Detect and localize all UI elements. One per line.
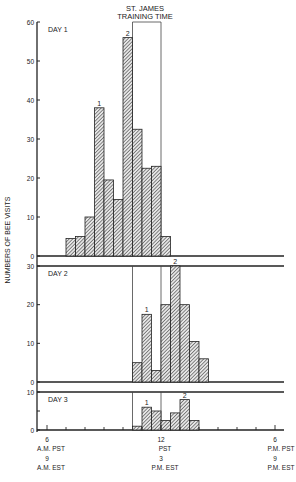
bar xyxy=(199,359,209,382)
bar xyxy=(190,421,200,431)
bar xyxy=(133,129,143,256)
y-tick-label: 60 xyxy=(27,19,35,26)
x-tick-est-num: 9 xyxy=(273,455,277,462)
bar xyxy=(142,314,152,382)
bar xyxy=(171,413,181,430)
bar xyxy=(133,426,143,430)
bar xyxy=(104,180,114,256)
y-tick-label: 0 xyxy=(30,379,34,386)
x-tick-pst: P.M. PST xyxy=(268,445,295,452)
x-tick-est-num: 3 xyxy=(159,455,163,462)
bar xyxy=(76,237,86,257)
bar-annotation: 1 xyxy=(97,100,101,107)
bar xyxy=(152,370,162,382)
y-tick-label: 50 xyxy=(27,58,35,65)
y-tick-label: 30 xyxy=(27,263,35,270)
x-tick-label: 6 xyxy=(45,436,49,443)
panel-label: DAY 1 xyxy=(48,26,68,33)
x-tick-est: P.M. EST xyxy=(268,464,295,471)
plot-area: 0102030405060DAY 1120102030DAY 212010DAY… xyxy=(27,19,295,472)
panel-label: DAY 3 xyxy=(48,396,68,403)
y-tick-label: 10 xyxy=(27,340,35,347)
bar xyxy=(161,237,171,257)
y-tick-label: 0 xyxy=(30,253,34,260)
bar xyxy=(123,38,133,256)
panel-label: DAY 2 xyxy=(48,270,68,277)
bar xyxy=(152,166,162,256)
x-tick-est: P.M. EST xyxy=(152,464,179,471)
y-tick-label: 20 xyxy=(27,175,35,182)
bar xyxy=(161,421,171,431)
bar-annotation: 2 xyxy=(183,392,187,399)
bar-annotation: 2 xyxy=(126,30,130,37)
x-tick-est: A.M. EST xyxy=(37,464,65,471)
bar xyxy=(171,266,181,382)
bar-annotation: 2 xyxy=(173,258,177,265)
bar-annotation: 1 xyxy=(145,399,149,406)
bar xyxy=(152,411,162,430)
bar xyxy=(161,305,171,382)
y-tick-label: 10 xyxy=(27,214,35,221)
y-tick-label: 0 xyxy=(30,427,34,434)
y-tick-label: 30 xyxy=(27,136,35,143)
y-tick-label: 10 xyxy=(27,389,35,396)
y-tick-label: 20 xyxy=(27,301,35,308)
bar xyxy=(114,199,124,256)
y-tick-label: 40 xyxy=(27,97,35,104)
x-tick-label: 12 xyxy=(157,436,165,443)
x-tick-label: 6 xyxy=(273,436,277,443)
x-tick-pst: A.M. PST xyxy=(37,445,65,452)
bar xyxy=(133,363,143,382)
bar xyxy=(66,238,76,256)
bar xyxy=(180,305,190,382)
bar xyxy=(85,217,95,256)
training-title-line2: TRAINING TIME xyxy=(117,12,173,21)
y-axis-label: NUMBERS OF BEE VISITS xyxy=(4,196,11,283)
x-tick-est-num: 9 xyxy=(45,455,49,462)
bar-annotation: 1 xyxy=(145,306,149,313)
bar xyxy=(190,341,200,382)
bar xyxy=(180,400,190,430)
bar xyxy=(142,407,152,430)
bar xyxy=(142,168,152,256)
bar xyxy=(95,108,105,256)
bee-visits-chart: ST. JAMES TRAINING TIME NUMBERS OF BEE V… xyxy=(0,0,296,482)
x-tick-pst: PST xyxy=(159,445,172,452)
